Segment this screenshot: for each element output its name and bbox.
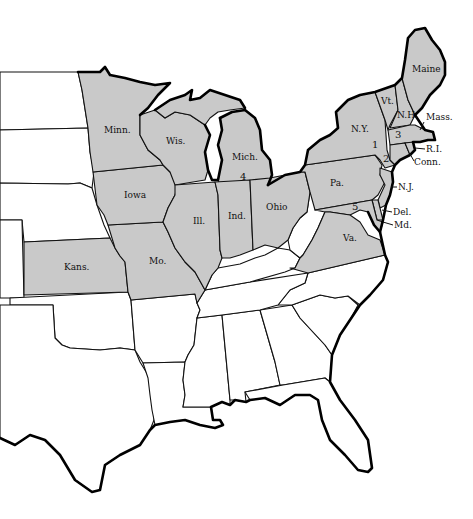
number-1: 1 <box>372 139 378 150</box>
state-south-dakota <box>0 128 94 188</box>
number-5: 5 <box>352 201 358 212</box>
label-pa: Pa. <box>330 178 344 188</box>
label-minn: Minn. <box>104 125 131 135</box>
label-kans: Kans. <box>64 262 90 272</box>
label-mo: Mo. <box>149 256 166 266</box>
label-va: Va. <box>342 233 357 243</box>
number-3: 3 <box>395 129 401 140</box>
label-vt: Vt. <box>380 96 394 106</box>
number-2: 2 <box>383 153 389 164</box>
label-nj: N.J. <box>398 182 414 192</box>
state-florida <box>245 378 372 472</box>
label-ohio: Ohio <box>266 202 287 212</box>
number-4: 4 <box>240 171 246 182</box>
label-iowa: Iowa <box>124 190 147 200</box>
state-north-dakota <box>0 72 88 130</box>
label-del: Del. <box>393 207 411 217</box>
state-colorado <box>0 220 24 298</box>
label-nh: N.H. <box>397 110 418 120</box>
label-conn: Conn. <box>414 157 441 167</box>
label-ny: N.Y. <box>351 124 369 134</box>
label-mich: Mich. <box>232 152 258 162</box>
label-ill: Ill. <box>193 216 205 226</box>
label-wis: Wis. <box>166 136 186 146</box>
label-ind: Ind. <box>228 211 246 221</box>
us-map: Maine Vt. N.H. Mass. R.I. Conn. N.Y. N.J… <box>0 0 473 519</box>
label-mass: Mass. <box>426 112 453 122</box>
label-ri: R.I. <box>426 144 442 154</box>
label-md: Md. <box>394 220 412 230</box>
label-maine: Maine <box>412 64 441 74</box>
